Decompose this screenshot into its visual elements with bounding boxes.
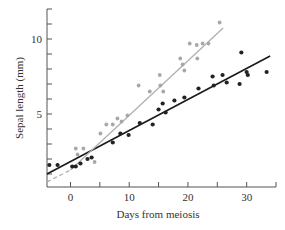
light-data-point — [148, 90, 152, 94]
light-data-point — [207, 42, 211, 46]
light-data-point — [111, 123, 115, 127]
x-tick-label: 30 — [241, 191, 253, 203]
scatter-chart: 5100102030 Days from meiosis Sepal lengt… — [0, 0, 285, 230]
light-data-point — [104, 123, 108, 127]
y-axis-label: Sepal length (mm) — [13, 57, 26, 139]
dark-data-point — [164, 110, 168, 114]
y-tick-label: 5 — [37, 108, 43, 120]
light-data-point — [201, 42, 205, 46]
dark-data-point — [85, 157, 89, 161]
dark-data-point — [55, 163, 59, 167]
dark-data-point — [239, 50, 243, 54]
light-data-point — [126, 114, 130, 118]
light-data-point — [99, 132, 103, 136]
dark-data-point — [210, 74, 214, 78]
fit-lines — [47, 28, 270, 182]
y-tick-label: 10 — [31, 33, 43, 45]
dark-data-point — [127, 133, 131, 137]
dark-data-point — [182, 95, 186, 99]
light-data-point — [158, 73, 162, 77]
light-data-point — [183, 69, 187, 73]
dark-data-point — [246, 73, 250, 77]
axes: 5100102030 — [31, 9, 276, 203]
dark-data-point — [78, 161, 82, 165]
dark-data-point — [138, 121, 142, 125]
dark-data-point — [47, 163, 51, 167]
data-points — [47, 21, 268, 169]
light-data-point — [188, 42, 192, 46]
light-data-point — [181, 63, 185, 67]
dark-data-point — [111, 140, 115, 144]
dark-data-point — [237, 82, 241, 86]
dark-data-point — [265, 70, 269, 74]
dark-data-point — [151, 122, 155, 126]
light-data-point — [218, 21, 222, 25]
dark-data-point — [225, 80, 229, 84]
light-data-point — [161, 90, 165, 94]
light-data-point — [93, 160, 97, 164]
x-tick-label: 10 — [124, 191, 136, 203]
dark-data-point — [212, 83, 216, 87]
x-tick-label: 20 — [182, 191, 194, 203]
light-fit-line — [70, 28, 223, 170]
dark-data-point — [196, 86, 200, 90]
light-data-point — [82, 147, 86, 151]
light-data-point — [74, 147, 78, 151]
light-data-point — [178, 57, 182, 61]
x-tick-label: 0 — [68, 191, 74, 203]
dark-data-point — [90, 155, 94, 159]
light-data-point — [116, 117, 120, 121]
dark-data-point — [74, 164, 78, 168]
dark-data-point — [161, 101, 165, 105]
x-axis-label: Days from meiosis — [116, 208, 199, 220]
dark-data-point — [118, 131, 122, 135]
light-data-point — [120, 120, 124, 124]
light-data-point — [158, 84, 162, 88]
light-data-point — [195, 57, 199, 61]
dark-data-point — [220, 73, 224, 77]
dark-data-point — [172, 98, 176, 102]
dark-data-point — [156, 107, 160, 111]
light-data-point — [76, 153, 80, 157]
light-data-point — [137, 84, 141, 88]
light-data-point — [195, 43, 199, 47]
